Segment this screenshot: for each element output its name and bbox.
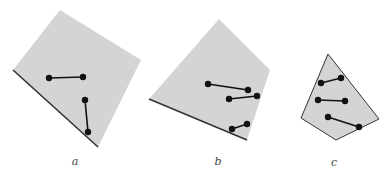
endpoint-dot	[244, 121, 250, 127]
convex-region	[149, 19, 270, 140]
endpoint-dot	[229, 126, 235, 132]
endpoint-dot	[80, 74, 86, 80]
line-segment	[49, 77, 83, 78]
panel-b: b	[149, 19, 270, 168]
panel-label: a	[72, 155, 79, 168]
endpoint-dot	[85, 129, 91, 135]
endpoint-dot	[205, 81, 211, 87]
convex-region	[13, 10, 141, 147]
panel-label: c	[331, 156, 337, 169]
panel-c: c	[301, 54, 379, 169]
endpoint-dot	[342, 98, 348, 104]
endpoint-dot	[338, 75, 344, 81]
panel-label: b	[214, 155, 221, 168]
endpoint-dot	[245, 87, 251, 93]
endpoint-dot	[325, 114, 331, 120]
line-segment	[318, 100, 345, 101]
endpoint-dot	[46, 75, 52, 81]
endpoint-dot	[82, 97, 88, 103]
endpoint-dot	[318, 80, 324, 86]
endpoint-dot	[315, 97, 321, 103]
endpoint-dot	[226, 96, 232, 102]
endpoint-dot	[254, 93, 260, 99]
panel-a: a	[13, 10, 141, 168]
endpoint-dot	[356, 124, 362, 130]
diagram-canvas: a b c	[0, 0, 392, 177]
convex-region	[301, 54, 379, 140]
